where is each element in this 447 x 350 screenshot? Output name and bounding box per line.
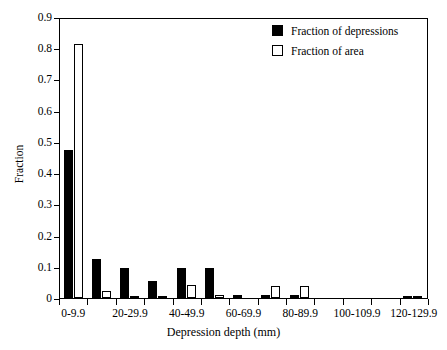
chart-legend: Fraction of depressions Fraction of area xyxy=(272,22,440,62)
y-tick-label: 0.7 xyxy=(38,75,52,87)
x-tick-label: 20-29.9 xyxy=(112,307,147,320)
legend-label-depressions: Fraction of depressions xyxy=(291,25,398,37)
bar-group xyxy=(116,19,144,298)
chart-figure: Fraction 0.90.80.70.60.50.40.30.20.10 0-… xyxy=(0,0,447,350)
x-tick-mark xyxy=(371,299,372,305)
legend-swatch-open-square-icon xyxy=(272,45,283,56)
x-tick-mark xyxy=(173,299,174,305)
bar-fraction-of-depressions xyxy=(120,268,129,298)
y-tick-label: 0.2 xyxy=(38,231,52,243)
y-axis: Fraction 0.90.80.70.60.50.40.30.20.10 xyxy=(0,0,59,350)
bar-group xyxy=(201,19,229,298)
bar-fraction-of-depressions xyxy=(64,150,73,298)
bar-group xyxy=(88,19,116,298)
x-axis-title: Depression depth (mm) xyxy=(0,325,447,340)
bar-fraction-of-depressions xyxy=(261,295,270,298)
bar-fraction-of-area xyxy=(187,285,196,298)
y-tick-label: 0.3 xyxy=(38,200,52,212)
x-tick-mark xyxy=(343,299,344,305)
legend-item-depressions: Fraction of depressions xyxy=(272,22,440,39)
legend-label-area: Fraction of area xyxy=(291,45,364,57)
bar-fraction-of-depressions xyxy=(403,296,412,298)
bar-fraction-of-depressions xyxy=(290,295,299,298)
bar-group xyxy=(60,19,88,298)
legend-swatch-filled-square-icon xyxy=(272,25,283,36)
x-tick-mark xyxy=(286,299,287,305)
bar-fraction-of-depressions xyxy=(92,259,101,298)
x-axis-tick-labels: 0-9.920-29.940-49.960-69.980-89.9100-109… xyxy=(0,307,447,325)
y-tick-label: 0.8 xyxy=(38,43,52,55)
bar-group xyxy=(229,19,257,298)
x-tick-mark xyxy=(144,299,145,305)
x-tick-mark xyxy=(201,299,202,305)
bar-fraction-of-depressions xyxy=(205,268,214,298)
legend-item-area: Fraction of area xyxy=(272,42,440,59)
x-tick-mark xyxy=(428,299,429,305)
x-tick-mark xyxy=(116,299,117,305)
y-tick-label: 0.6 xyxy=(38,106,52,118)
x-tick-mark xyxy=(59,299,60,305)
y-tick-label: 0.1 xyxy=(38,262,52,274)
y-tick-label: 0.9 xyxy=(38,12,52,24)
x-tick-label: 40-49.9 xyxy=(169,307,204,320)
x-tick-mark xyxy=(400,299,401,305)
x-tick-label: 0-9.9 xyxy=(61,307,85,320)
bar-fraction-of-area xyxy=(300,286,309,298)
bar-fraction-of-area xyxy=(130,296,139,298)
bar-fraction-of-depressions xyxy=(148,281,157,298)
bar-group xyxy=(173,19,201,298)
x-tick-mark xyxy=(229,299,230,305)
bar-fraction-of-area xyxy=(215,295,224,298)
x-tick-label: 100-109.9 xyxy=(334,307,381,320)
x-tick-label: 60-69.9 xyxy=(226,307,261,320)
y-axis-title: Fraction xyxy=(13,109,25,219)
bar-fraction-of-depressions xyxy=(177,268,186,298)
bar-fraction-of-area xyxy=(158,296,167,298)
x-tick-label: 80-89.9 xyxy=(283,307,318,320)
x-tick-label: 120-129.9 xyxy=(390,307,437,320)
y-tick-label: 0.5 xyxy=(38,137,52,149)
bar-fraction-of-area xyxy=(102,291,111,298)
x-tick-mark xyxy=(258,299,259,305)
bar-fraction-of-area xyxy=(413,296,422,298)
x-axis-ticks xyxy=(59,299,428,306)
x-tick-mark xyxy=(87,299,88,305)
y-tick-label: 0 xyxy=(46,293,52,305)
bar-fraction-of-area xyxy=(271,286,280,298)
bar-group xyxy=(145,19,173,298)
bar-fraction-of-area xyxy=(74,44,83,298)
y-tick-label: 0.4 xyxy=(38,168,52,180)
x-tick-mark xyxy=(314,299,315,305)
bar-fraction-of-depressions xyxy=(233,295,242,298)
